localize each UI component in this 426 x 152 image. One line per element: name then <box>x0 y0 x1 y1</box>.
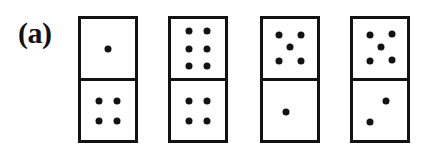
pip <box>367 31 374 38</box>
pip <box>114 98 121 105</box>
domino-4-bottom-face <box>353 81 407 140</box>
pip <box>383 98 390 105</box>
pip <box>105 45 112 52</box>
pip <box>185 45 192 52</box>
pip <box>276 58 283 65</box>
pip <box>204 98 211 105</box>
domino-3-top-face <box>263 19 317 81</box>
pip <box>185 63 192 70</box>
pip <box>185 98 192 105</box>
domino-4 <box>350 16 410 143</box>
pip <box>204 63 211 70</box>
pip <box>367 119 374 126</box>
pip <box>388 30 395 37</box>
pip <box>282 108 289 115</box>
domino-1 <box>78 16 138 143</box>
pip <box>287 44 294 51</box>
panel-label: (a) <box>18 14 51 52</box>
domino-3 <box>260 16 320 143</box>
pip <box>297 58 304 65</box>
domino-1-top-face <box>81 19 135 81</box>
domino-2 <box>168 16 228 143</box>
pip <box>276 31 283 38</box>
domino-2-top-face <box>171 19 225 81</box>
pip <box>204 27 211 34</box>
domino-2-bottom-face <box>171 81 225 140</box>
domino-4-top-face <box>353 19 407 81</box>
pip <box>297 31 304 38</box>
pip <box>204 45 211 52</box>
pip <box>185 27 192 34</box>
figure-panel: (a) <box>0 0 426 152</box>
pip <box>388 57 395 64</box>
domino-3-bottom-face <box>263 81 317 140</box>
pip <box>185 118 192 125</box>
domino-1-bottom-face <box>81 81 135 140</box>
pip <box>204 118 211 125</box>
pip <box>367 58 374 65</box>
pip <box>95 118 102 125</box>
pip <box>95 98 102 105</box>
pip <box>114 118 121 125</box>
pip <box>378 44 385 51</box>
